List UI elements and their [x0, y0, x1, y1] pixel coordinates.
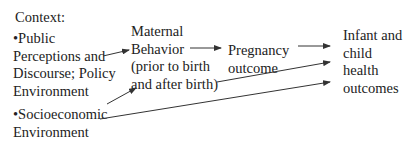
arrow-socio-to-maternal [107, 88, 136, 104]
arrow-public-to-maternal [103, 50, 129, 56]
arrow-socio-to-infant [100, 82, 330, 119]
arrows-layer [0, 0, 408, 143]
arrow-maternal-to-infant [217, 62, 330, 82]
